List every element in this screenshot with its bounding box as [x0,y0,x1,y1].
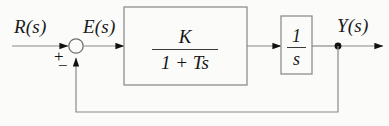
gain-denominator: 1 + Ts [148,50,222,72]
block-diagram-canvas: R(s) E(s) Y(s) + − K 1 + Ts 1 s [0,0,389,126]
summing-junction-minus-sign: − [58,57,68,74]
integrator-denominator: s [281,48,312,68]
integrator-block-transfer-function: 1 s [281,27,312,68]
input-signal-label: R(s) [14,17,46,36]
gain-block-transfer-function: K 1 + Ts [148,27,222,72]
error-signal-label: E(s) [83,17,115,36]
summing-junction-circle [69,39,83,53]
gain-numerator: K [148,27,222,49]
integrator-numerator: 1 [281,27,312,47]
output-signal-label: Y(s) [337,16,368,35]
